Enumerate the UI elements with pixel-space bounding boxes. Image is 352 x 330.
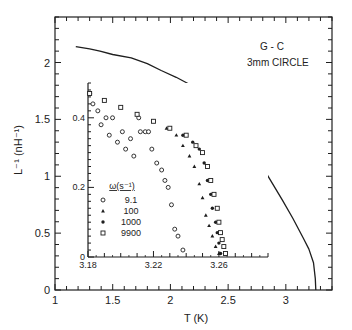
chart: 11.522.5300.511.52 3.183.223.2600.20.4 ω…: [0, 0, 352, 330]
y-tick-label: 1: [44, 170, 50, 182]
inset-y-tick-label: 0: [80, 252, 85, 262]
x-tick-label: 2: [167, 294, 173, 306]
inset-plot-frame: [88, 83, 268, 257]
x-tick-label: 1: [52, 294, 58, 306]
inset-y-tick-label: 0.4: [72, 113, 85, 123]
annotation-geometry: 3mm CIRCLE: [247, 57, 309, 68]
inset-y-tick-label: 0.2: [72, 182, 85, 192]
annotation-sample: G - C: [260, 41, 284, 52]
y-tick-label: 2: [44, 57, 50, 69]
legend-item-label: 9.1: [125, 195, 138, 205]
inset-x-tick-label: 3.22: [145, 260, 163, 270]
x-axis-title: T (K): [184, 312, 208, 324]
legend-item-label: 100: [123, 206, 138, 216]
y-tick-label: 0.5: [35, 227, 50, 239]
y-axis-title: L⁻¹ (nH⁻¹): [12, 125, 24, 175]
legend-title: ω(s⁻¹): [109, 181, 135, 191]
x-tick-label: 3: [283, 294, 289, 306]
x-tick-label: 1.5: [105, 294, 120, 306]
legend-item-label: 1000: [121, 217, 141, 227]
y-tick-label: 0: [44, 284, 50, 296]
legend-item-label: 9900: [121, 228, 141, 238]
inset-x-tick-label: 3.26: [210, 260, 228, 270]
x-tick-label: 2.5: [220, 294, 235, 306]
y-tick-label: 1.5: [35, 113, 50, 125]
